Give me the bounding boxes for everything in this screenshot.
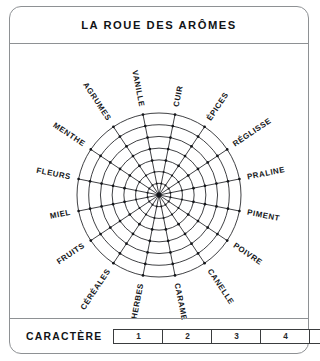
wheel-node xyxy=(153,217,155,219)
wheel-node xyxy=(227,180,230,183)
wheel-label-praline: PRALINE xyxy=(246,165,286,181)
wheel-node xyxy=(125,242,128,245)
wheel-node xyxy=(156,183,158,185)
wheel-label-miel: MIEL xyxy=(49,208,71,221)
wheel-node xyxy=(197,220,200,223)
wheel-nodes xyxy=(77,113,241,277)
caractere-rating-scale[interactable]: 12345 xyxy=(113,329,319,344)
wheel-node xyxy=(125,145,128,148)
wheel-node xyxy=(144,125,147,128)
wheel-node xyxy=(203,262,206,265)
wheel-node xyxy=(128,213,131,216)
card-header: LA ROUE DES ARÔMES xyxy=(10,7,308,44)
wheel-node xyxy=(163,171,165,173)
wheel-node xyxy=(138,164,141,167)
wheel-node xyxy=(119,252,122,255)
card-footer: CARACTÈRE 12345 xyxy=(10,318,308,353)
wheel-node xyxy=(132,233,135,236)
wheel-label-rglisse: RÉGLISSE xyxy=(231,116,273,148)
wheel-node xyxy=(119,220,122,223)
rating-cell-4[interactable]: 4 xyxy=(261,330,310,343)
wheel-node xyxy=(192,187,195,190)
wheel-node xyxy=(165,228,168,231)
wheel-label-herbes: HERBES xyxy=(130,282,146,319)
rating-cell-2[interactable]: 2 xyxy=(163,330,212,343)
wheel-node xyxy=(177,223,180,226)
wheel-node xyxy=(181,199,183,201)
wheel-node xyxy=(160,205,162,207)
rating-cell-1[interactable]: 1 xyxy=(114,330,163,343)
page-title: LA ROUE DES ARÔMES xyxy=(81,19,237,31)
wheel-node xyxy=(146,251,149,254)
wheel-node xyxy=(149,240,152,243)
wheel-node xyxy=(167,148,170,151)
aroma-wheel-diagram: CUIRÉPICESRÉGLISSEPRALINEPIMENTPOIVRECAN… xyxy=(10,44,310,320)
wheel-node xyxy=(167,240,170,243)
wheel-node xyxy=(100,205,103,208)
wheel-node xyxy=(160,183,162,185)
wheel-node xyxy=(204,203,207,206)
wheel-node xyxy=(128,174,131,177)
wheel-node xyxy=(112,125,115,128)
wheel-node xyxy=(147,196,149,198)
wheel-node xyxy=(99,233,102,236)
wheel-node xyxy=(192,201,195,204)
wheel-node xyxy=(139,181,141,183)
wheel-node xyxy=(215,182,218,185)
wheel-node xyxy=(156,205,158,207)
wheel-node xyxy=(135,189,137,191)
wheel-node xyxy=(112,203,115,206)
wheel-node xyxy=(132,155,135,158)
wheel-node xyxy=(135,199,137,201)
wheel-node xyxy=(168,187,170,189)
wheel-node xyxy=(190,145,193,148)
wheel-node xyxy=(203,125,206,128)
wheel-node xyxy=(144,263,147,266)
wheel-node xyxy=(197,168,200,171)
rating-cell-3[interactable]: 3 xyxy=(212,330,261,343)
wheel-node xyxy=(148,201,150,203)
wheel-label-poivre: POIVRE xyxy=(232,241,265,267)
wheel-node xyxy=(171,213,173,215)
wheel-label-fleurs: FLEURS xyxy=(36,166,72,182)
wheel-node xyxy=(169,136,172,139)
wheel-label-canelle: CANELLE xyxy=(206,267,236,306)
wheel-node xyxy=(151,184,153,186)
wheel-label-fruits: FRUITS xyxy=(55,241,86,266)
wheel-label-vanille: VANILLE xyxy=(130,69,146,107)
wheel-node xyxy=(112,185,115,188)
aroma-wheel-card: LA ROUE DES ARÔMES CUIRÉPICESRÉGLISSEPRA… xyxy=(9,6,309,354)
wheel-label-crales: CÉRÉALES xyxy=(79,267,113,311)
wheel-node xyxy=(89,148,92,151)
wheel-node xyxy=(99,155,102,158)
wheel-node xyxy=(216,233,219,236)
wheel-node xyxy=(187,213,190,216)
wheel-node xyxy=(89,180,92,183)
wheel-node xyxy=(77,210,80,213)
wheel-node xyxy=(109,226,112,229)
wheel-node xyxy=(146,136,149,139)
wheel-node xyxy=(142,113,145,116)
wheel-node xyxy=(169,196,171,198)
wheel-node xyxy=(89,207,92,210)
wheel-node xyxy=(123,201,126,204)
wheel-node xyxy=(139,207,141,209)
wheel-node xyxy=(138,223,141,226)
wheel-node xyxy=(177,164,180,167)
wheel-node xyxy=(109,161,112,164)
wheel-node xyxy=(149,148,152,151)
wheel-node xyxy=(238,178,241,181)
wheel-node xyxy=(206,226,209,229)
wheel-node xyxy=(168,201,170,203)
wheel-node xyxy=(165,204,167,206)
wheel-label-pices: ÉPICES xyxy=(205,91,230,123)
rating-cell-5[interactable]: 5 xyxy=(310,330,319,343)
caractere-label: CARACTÈRE xyxy=(26,331,102,342)
wheel-label-agrumes: AGRUMES xyxy=(81,81,113,123)
wheel-node xyxy=(226,239,229,242)
wheel-node xyxy=(184,233,187,236)
wheel-node xyxy=(187,174,190,177)
wheel-label-caramel: CARAMEL xyxy=(173,282,190,320)
wheel-node xyxy=(227,207,230,210)
wheel-node xyxy=(153,171,155,173)
